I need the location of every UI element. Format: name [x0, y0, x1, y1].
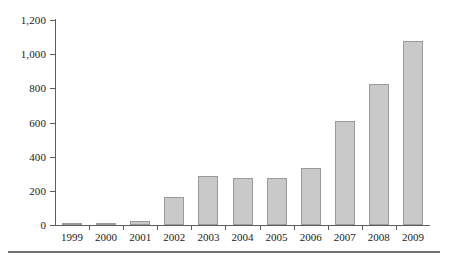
x-axis-tick	[225, 226, 226, 230]
y-axis-tick-label: 800	[29, 83, 46, 94]
bar-2006	[301, 168, 321, 225]
x-axis-tick	[191, 226, 192, 230]
x-axis-label-2009: 2009	[396, 231, 430, 243]
x-axis-label-2006: 2006	[294, 231, 328, 243]
x-axis-tick	[396, 226, 397, 230]
x-axis-label-2001: 2001	[123, 231, 157, 243]
x-axis-label-2003: 2003	[191, 231, 225, 243]
x-axis-label-2008: 2008	[362, 231, 396, 243]
bar-chart-figure: 02004006008001,0001,200 1999200020012002…	[0, 0, 450, 260]
y-axis-tick-label: 0	[40, 220, 46, 231]
y-axis-tick-label: 1,000	[21, 49, 46, 60]
bar-2008	[369, 84, 389, 225]
bar-2005	[267, 178, 287, 225]
x-axis-label-2005: 2005	[260, 231, 294, 243]
bottom-rule	[8, 251, 440, 253]
bar-2000	[96, 223, 116, 225]
x-axis-label-2007: 2007	[328, 231, 362, 243]
bar-2007	[335, 121, 355, 225]
x-axis-label-1999: 1999	[55, 231, 89, 243]
x-axis-tick	[157, 226, 158, 230]
y-axis-tick-label: 200	[29, 186, 46, 197]
y-axis-tick-label: 1,200	[21, 15, 46, 26]
plot-area	[55, 20, 430, 225]
x-axis-line	[55, 225, 430, 226]
x-axis-tick	[123, 226, 124, 230]
x-axis-tick	[328, 226, 329, 230]
bar-2002	[164, 197, 184, 225]
y-axis-tick-label: 600	[29, 118, 46, 129]
x-axis-tick	[260, 226, 261, 230]
x-axis-label-2000: 2000	[89, 231, 123, 243]
y-axis-tick-label: 400	[29, 152, 46, 163]
x-axis-tick	[294, 226, 295, 230]
bar-2001	[130, 221, 150, 225]
bar-2004	[233, 178, 253, 225]
bar-2009	[403, 41, 423, 225]
bar-1999	[62, 223, 82, 225]
x-axis-tick	[362, 226, 363, 230]
bar-2003	[198, 176, 218, 225]
x-axis-tick	[89, 226, 90, 230]
x-axis-label-2002: 2002	[157, 231, 191, 243]
x-axis-label-2004: 2004	[225, 231, 259, 243]
